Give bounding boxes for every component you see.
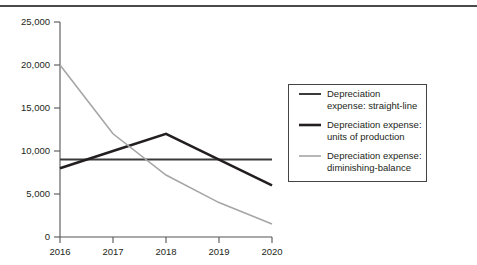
y-tick-label: 15,000 [21, 102, 50, 113]
data-series-group [60, 65, 272, 224]
series-line [60, 65, 272, 224]
y-axis-ticks [54, 22, 60, 237]
y-tick-label: 5,000 [26, 188, 50, 199]
x-tick-label: 2019 [208, 246, 229, 257]
y-tick-label: 10,000 [21, 145, 50, 156]
x-tick-label: 2018 [155, 246, 176, 257]
chart-figure: 05,00010,00015,00020,00025,000 201620172… [0, 0, 477, 265]
y-tick-label: 0 [45, 231, 50, 242]
legend-label-line2: diminishing-balance [327, 162, 411, 173]
x-tick-label: 2016 [49, 246, 70, 257]
x-tick-label: 2017 [102, 246, 123, 257]
x-axis-tick-labels: 20162017201820192020 [49, 246, 282, 257]
y-tick-label: 20,000 [21, 59, 50, 70]
x-tick-label: 2020 [261, 246, 282, 257]
y-tick-label: 25,000 [21, 16, 50, 27]
line-chart: 05,00010,00015,00020,00025,000 201620172… [0, 0, 477, 265]
legend-label-line2: expense: straight-line [327, 100, 417, 111]
legend-label-line1: Depreciation expense: [327, 119, 422, 130]
y-axis-tick-labels: 05,00010,00015,00020,00025,000 [21, 16, 50, 242]
x-axis-ticks [60, 237, 272, 243]
chart-legend: Depreciationexpense: straight-lineDeprec… [289, 85, 427, 182]
legend-label-line2: units of production [327, 131, 405, 142]
legend-label-line1: Depreciation expense: [327, 150, 422, 161]
legend-label-line1: Depreciation [327, 88, 380, 99]
